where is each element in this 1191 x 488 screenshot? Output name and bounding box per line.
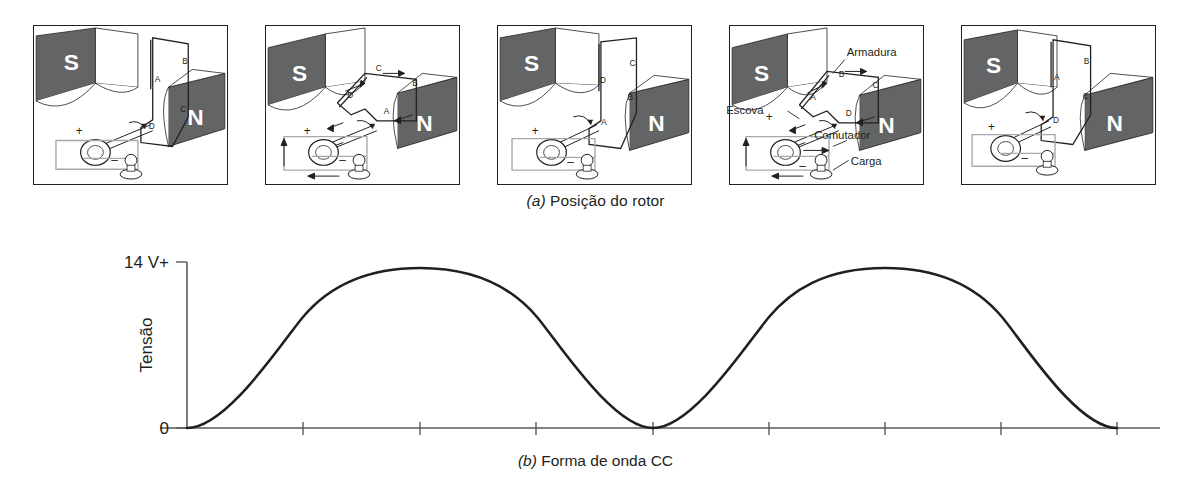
- y-axis-title: Tensão: [137, 318, 156, 373]
- positive-terminal-label: +: [532, 124, 539, 138]
- north-magnet: N: [393, 73, 457, 148]
- south-pole-label: S: [524, 50, 539, 76]
- part-b-caption: (b) Forma de onda CC: [0, 452, 1191, 470]
- north-magnet: N: [164, 69, 225, 146]
- south-pole-label: S: [292, 60, 307, 86]
- node-label-b: B: [628, 92, 634, 102]
- node-label-d: D: [347, 90, 353, 100]
- part-a-caption-marker: (a): [526, 192, 545, 209]
- part-a-caption-text: Posição do rotor: [546, 192, 665, 209]
- rotor-panel-3: S N: [497, 25, 692, 185]
- south-magnet: S: [500, 28, 599, 106]
- south-pole-label: S: [64, 49, 79, 75]
- south-magnet: S: [36, 28, 138, 106]
- node-label-b: B: [182, 56, 188, 66]
- positive-terminal-label: +: [76, 124, 83, 138]
- rotor-diagram-4: S N: [730, 26, 923, 184]
- north-pole-label: N: [1106, 110, 1122, 136]
- rotor-position-panels: S N: [0, 0, 1191, 190]
- node-label-c: C: [376, 63, 382, 73]
- node-label-d: D: [149, 121, 155, 131]
- node-label-c: C: [180, 104, 186, 114]
- negative-terminal-label: –: [1021, 151, 1028, 165]
- callout-brush: Escova: [726, 104, 764, 116]
- waveform-curve: [187, 268, 1117, 428]
- rotor-panel-5: S N: [961, 25, 1156, 185]
- rotor-panel-1: S N: [33, 25, 228, 185]
- node-label-b: B: [839, 69, 845, 79]
- node-label-a: A: [601, 117, 607, 127]
- y-axis-ticks: [176, 262, 187, 428]
- node-label-d: D: [846, 108, 852, 118]
- callout-armature: Armadura: [847, 46, 897, 58]
- north-magnet: N: [625, 75, 689, 150]
- north-pole-label: N: [648, 110, 664, 136]
- node-label-d: D: [1053, 115, 1059, 125]
- negative-terminal-label: –: [799, 159, 806, 173]
- node-label-a: A: [810, 92, 816, 102]
- node-label-a: A: [384, 106, 390, 116]
- positive-terminal-label: +: [988, 120, 995, 134]
- part-b-caption-marker: (b): [518, 452, 537, 469]
- node-label-a: A: [1054, 72, 1060, 82]
- node-label-c: C: [1083, 91, 1089, 101]
- rotor-diagram-3: S N: [498, 26, 691, 184]
- callout-load: Carga: [851, 155, 883, 167]
- rotor-diagram-2: S N: [266, 26, 459, 184]
- north-pole-label: N: [187, 104, 203, 130]
- y-tick-label-zero: 0: [160, 419, 169, 438]
- node-label-b: B: [412, 78, 418, 88]
- part-b-caption-text: Forma de onda CC: [537, 452, 673, 469]
- south-pole-label: S: [986, 52, 1001, 78]
- positive-terminal-label: +: [304, 124, 311, 138]
- y-tick-label-max: 14 V+: [124, 253, 169, 272]
- node-label-c: C: [872, 80, 878, 90]
- positive-terminal-label: +: [766, 110, 773, 124]
- waveform-svg: 14 V+ 0 Tensão: [0, 232, 1191, 447]
- rotor-panel-4: S N: [729, 25, 924, 185]
- node-label-c: C: [630, 58, 636, 68]
- part-a-caption: (a) Posição do rotor: [0, 192, 1191, 210]
- dc-waveform-chart: 14 V+ 0 Tensão: [0, 232, 1191, 447]
- south-magnet: S: [964, 30, 1057, 108]
- node-label-a: A: [155, 74, 161, 84]
- callout-commutator: Comutador: [814, 129, 870, 141]
- node-label-d: D: [600, 75, 606, 85]
- north-pole-label: N: [878, 112, 894, 138]
- negative-terminal-label: –: [111, 153, 118, 167]
- node-label-b: B: [1084, 56, 1090, 66]
- negative-terminal-label: –: [567, 155, 574, 169]
- rotor-diagram-1: S N: [34, 26, 227, 184]
- south-pole-label: S: [754, 60, 769, 86]
- negative-terminal-label: –: [339, 153, 346, 167]
- north-pole-label: N: [416, 110, 432, 136]
- rotor-panel-2: S N: [265, 25, 460, 185]
- rotor-diagram-5: S N: [962, 26, 1155, 184]
